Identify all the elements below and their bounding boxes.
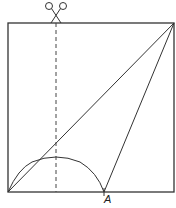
scissors-icon bbox=[46, 3, 67, 24]
point-a-label: A bbox=[104, 193, 111, 205]
line-a-to-corner bbox=[104, 23, 174, 192]
diagonal-line bbox=[8, 23, 174, 192]
geometry-diagram bbox=[0, 0, 176, 208]
